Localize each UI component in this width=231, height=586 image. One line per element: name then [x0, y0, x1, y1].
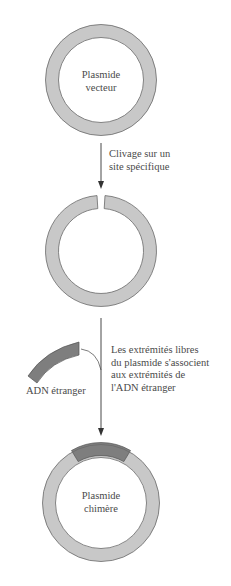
cleavage-step-label: Clivage sur un site spécifique [109, 148, 170, 173]
ligation-step-label: Les extrémités libres du plasmide s'asso… [111, 344, 209, 394]
ligation-step-line2: du plasmide s'associent [111, 357, 209, 370]
ligation-step-line1: Les extrémités libres [111, 344, 209, 357]
cleavage-arrow [98, 143, 104, 189]
cleaved-plasmid-ring [46, 196, 157, 307]
cleavage-step-line2: site spécifique [109, 161, 170, 174]
plasmid-vector-label-line1: Plasmide [61, 69, 141, 82]
ligation-step-line4: l'ADN étranger [111, 382, 209, 395]
chimeric-plasmid-label-line2: chimère [61, 503, 141, 516]
chimeric-plasmid-label: Plasmide chimère [61, 490, 141, 515]
foreign-dna-fragment [28, 342, 101, 383]
plasmid-vector-label-line2: vecteur [61, 82, 141, 95]
plasmid-vector-label: Plasmide vecteur [61, 69, 141, 94]
chimeric-plasmid-label-line1: Plasmide [61, 490, 141, 503]
foreign-dna-label: ADN étranger [26, 385, 86, 398]
ligation-step-line3: aux extrémités de [111, 369, 209, 382]
cleavage-step-line1: Clivage sur un [109, 148, 170, 161]
ligation-arrow [98, 318, 104, 436]
